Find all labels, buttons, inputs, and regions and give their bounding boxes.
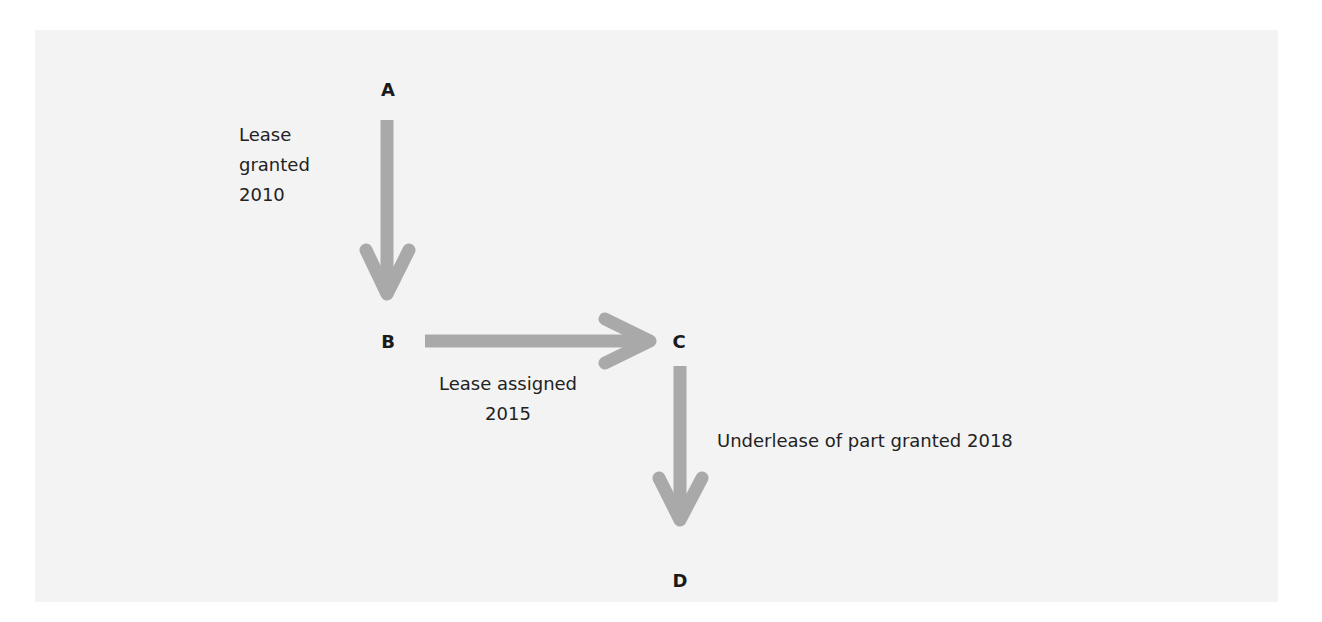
arrow-b-to-c-icon	[425, 319, 650, 363]
edge-label-line: 2010	[239, 180, 310, 210]
arrows-layer	[0, 0, 1322, 622]
edge-label-c-d: Underlease of part granted 2018	[717, 426, 1013, 456]
arrow-a-to-b-icon	[366, 120, 409, 294]
edge-label-a-b: Lease granted 2010	[239, 120, 310, 210]
edge-label-b-c: Lease assigned 2015	[439, 369, 577, 429]
edge-label-line: Lease assigned	[439, 369, 577, 399]
node-c: C	[672, 333, 685, 351]
edge-label-line: Underlease of part granted 2018	[717, 426, 1013, 456]
edge-label-line: 2015	[439, 399, 577, 429]
edge-label-line: Lease	[239, 120, 310, 150]
node-a: A	[381, 81, 395, 99]
arrow-c-to-d-icon	[659, 366, 702, 520]
edge-label-line: granted	[239, 150, 310, 180]
node-d: D	[673, 572, 688, 590]
node-b: B	[381, 333, 395, 351]
